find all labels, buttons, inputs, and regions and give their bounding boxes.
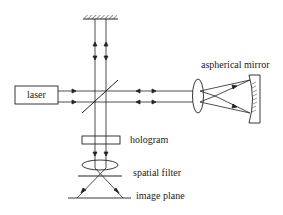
imaging-lens	[82, 160, 118, 170]
aspherical-mirror-label: aspherical mirror	[201, 59, 270, 70]
laser-label: laser	[27, 89, 46, 100]
beam-splitter	[82, 80, 118, 113]
hologram-plate	[82, 136, 120, 144]
horizontal-beams	[58, 89, 196, 104]
mirror-beams	[200, 80, 250, 113]
focusing-lens	[193, 79, 204, 113]
reference-mirror	[83, 15, 118, 19]
image-plane-label: image plane	[136, 190, 185, 201]
imaging-beams	[77, 168, 123, 198]
aspherical-mirror	[249, 75, 260, 123]
hologram-label: hologram	[130, 134, 168, 145]
optical-diagram	[0, 0, 283, 215]
spatial-filter-label: spatial filter	[133, 167, 181, 178]
